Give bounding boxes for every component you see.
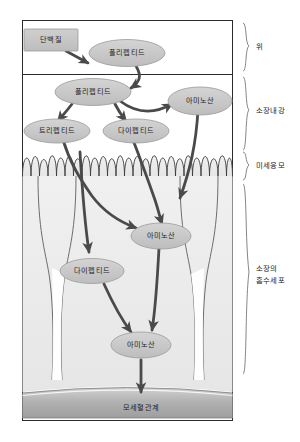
bracket-absorptive xyxy=(243,184,249,374)
node-polypeptide-stomach[interactable] xyxy=(89,40,165,67)
node-aminoacid-lumen[interactable] xyxy=(168,87,232,115)
node-dipeptide-lumen[interactable] xyxy=(103,119,169,143)
bracket-microvilli xyxy=(243,152,249,180)
node-dipeptide-cell[interactable] xyxy=(60,259,124,284)
node-polypeptide-lumen[interactable] xyxy=(55,79,131,106)
node-protein[interactable] xyxy=(24,29,78,51)
bracket-lumen xyxy=(243,77,249,150)
bracket-stomach xyxy=(243,23,249,71)
diagram-svg xyxy=(0,0,300,442)
node-tripeptide[interactable] xyxy=(24,119,90,143)
diagram-canvas: 단백질 폴리펩티드 폴리펩티드 아미노산 트리펩티드 다이펩티드 아미노산 다이… xyxy=(0,0,300,442)
capillary-vessel xyxy=(23,388,233,419)
node-aminoacid-cell[interactable] xyxy=(131,223,191,249)
node-aminoacid-bottom[interactable] xyxy=(111,332,171,358)
